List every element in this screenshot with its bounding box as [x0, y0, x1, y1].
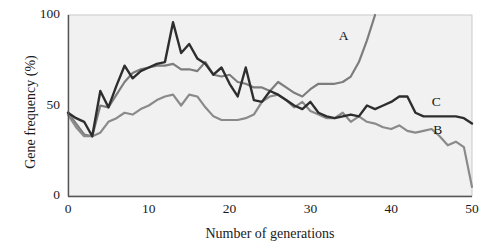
- series-label-c: C: [432, 94, 441, 110]
- series-label-b: B: [433, 122, 442, 138]
- gene-frequency-line-chart: Gene frequency (%) Number of generations…: [0, 0, 498, 250]
- y-tick-label: 100: [26, 6, 60, 22]
- x-tick-label: 20: [213, 201, 247, 217]
- series-label-a: A: [339, 28, 349, 44]
- x-tick-label: 30: [293, 201, 327, 217]
- x-tick-label: 10: [132, 201, 166, 217]
- y-tick-label: 50: [26, 97, 60, 113]
- x-axis-title: Number of generations: [68, 226, 472, 242]
- x-tick-label: 50: [455, 201, 489, 217]
- x-tick-label: 40: [374, 201, 408, 217]
- x-tick-label: 0: [51, 201, 85, 217]
